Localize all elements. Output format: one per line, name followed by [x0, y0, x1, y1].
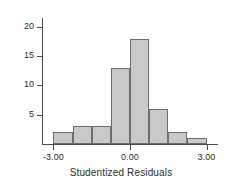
y-axis-tick-label: 10: [8, 80, 34, 89]
histogram-bar: [53, 132, 72, 144]
y-axis-tick-label: 5: [8, 110, 34, 119]
histogram-bar: [149, 109, 168, 144]
x-axis-tick-label: 0.00: [107, 153, 153, 162]
histogram-bar: [168, 132, 187, 144]
x-axis-tick-label: -3.00: [30, 153, 76, 162]
x-axis-title: Studentized Residuals: [0, 167, 242, 178]
x-axis-tick-mark: [207, 145, 208, 150]
histogram-chart: 5101520 -3.000.003.00 Studentized Residu…: [0, 0, 242, 191]
y-axis-tick-label: 15: [8, 51, 34, 60]
x-axis-tick-mark: [53, 145, 54, 150]
histogram-bar: [73, 126, 92, 144]
x-axis-tick-mark: [130, 145, 131, 150]
histogram-bar: [130, 39, 149, 144]
histogram-bars: [42, 18, 218, 144]
histogram-bar: [187, 138, 206, 144]
y-axis-tick-label: 20: [8, 22, 34, 31]
x-axis-tick-label: 3.00: [184, 153, 230, 162]
histogram-bar: [111, 68, 130, 144]
histogram-bar: [92, 126, 111, 144]
